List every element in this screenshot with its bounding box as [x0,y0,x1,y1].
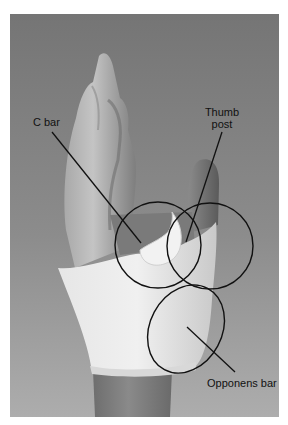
c-bar-label: C bar [33,116,60,128]
thumb-post-label-line2: post [212,118,233,130]
thumb-post-label-line1: Thumb [205,106,239,118]
figure-canvas: C bar Thumb post Opponens bar [0,0,288,425]
opponens-bar-label: Opponens bar [207,377,277,389]
wrist [93,370,172,417]
splint-figure: C bar Thumb post Opponens bar [0,0,288,425]
